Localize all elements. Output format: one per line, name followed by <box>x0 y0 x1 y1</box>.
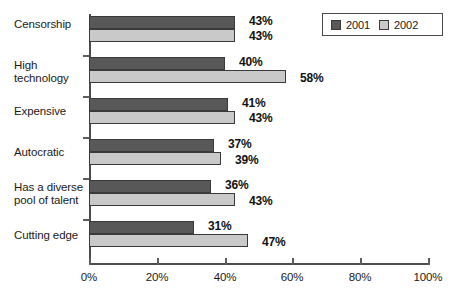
bar-has-a-diverse-pool-of-talent-2001 <box>89 180 211 193</box>
x-axis-tick-label-60: 60% <box>262 271 322 283</box>
bar-value-censorship-2001: 43% <box>249 14 272 28</box>
bar-value-autocratic-2002: 39% <box>235 153 258 167</box>
bar-autocratic-2002 <box>89 152 221 165</box>
bar-value-censorship-2002: 43% <box>249 29 272 43</box>
x-axis-tick-label-20: 20% <box>127 271 187 283</box>
bar-expensive-2002 <box>89 111 235 124</box>
bar-value-has-a-diverse-pool-of-talent-2002: 43% <box>249 194 272 208</box>
x-axis-tick <box>428 258 430 265</box>
legend-label-2001: 2001 <box>346 19 370 31</box>
bar-has-a-diverse-pool-of-talent-2002 <box>89 193 235 206</box>
category-label-expensive: Expensive <box>14 105 86 118</box>
bar-value-expensive-2002: 43% <box>249 111 272 125</box>
legend-label-2002: 2002 <box>394 19 418 31</box>
x-axis-tick-label-100: 100% <box>398 271 458 283</box>
bar-expensive-2001 <box>89 98 228 111</box>
x-axis-tick-label-0: 0% <box>59 271 119 283</box>
bar-value-has-a-diverse-pool-of-talent-2001: 36% <box>225 178 248 192</box>
x-axis-tick-label-40: 40% <box>195 271 255 283</box>
category-label-censorship: Censorship <box>14 18 86 31</box>
chart-legend: 2001 2002 <box>322 13 443 36</box>
category-label-autocratic: Autocratic <box>14 146 86 159</box>
x-axis-tick <box>89 258 91 265</box>
bar-autocratic-2001 <box>89 139 214 152</box>
category-label-high-technology: High technology <box>14 59 86 85</box>
bar-high-technology-2002 <box>89 70 286 83</box>
bar-censorship-2001 <box>89 16 235 29</box>
category-label-has-a-diverse-pool-of-talent: Has a diverse pool of talent <box>14 181 86 207</box>
bar-value-high-technology-2001: 40% <box>239 55 262 69</box>
horizontal-bar-chart: Censorship High technology Expensive Aut… <box>0 0 463 303</box>
x-axis-tick <box>157 258 159 265</box>
x-axis-tick <box>292 258 294 265</box>
legend-swatch-icon-2002 <box>379 20 389 30</box>
bar-value-expensive-2001: 41% <box>242 96 265 110</box>
x-axis-line <box>89 263 429 265</box>
bar-high-technology-2001 <box>89 57 225 70</box>
bar-value-high-technology-2002: 58% <box>300 71 323 85</box>
legend-item-2001: 2001 <box>331 19 370 31</box>
bar-censorship-2002 <box>89 29 235 42</box>
category-label-cutting-edge: Cutting edge <box>14 229 86 242</box>
x-axis-tick-label-80: 80% <box>330 271 390 283</box>
bar-value-cutting-edge-2001: 31% <box>208 219 231 233</box>
bar-value-autocratic-2001: 37% <box>228 137 251 151</box>
legend-item-2002: 2002 <box>379 19 418 31</box>
bar-cutting-edge-2002 <box>89 234 248 247</box>
bar-value-cutting-edge-2002: 47% <box>262 235 285 249</box>
x-axis-tick <box>225 258 227 265</box>
legend-swatch-icon-2001 <box>331 20 341 30</box>
bar-cutting-edge-2001 <box>89 221 194 234</box>
x-axis-tick <box>360 258 362 265</box>
